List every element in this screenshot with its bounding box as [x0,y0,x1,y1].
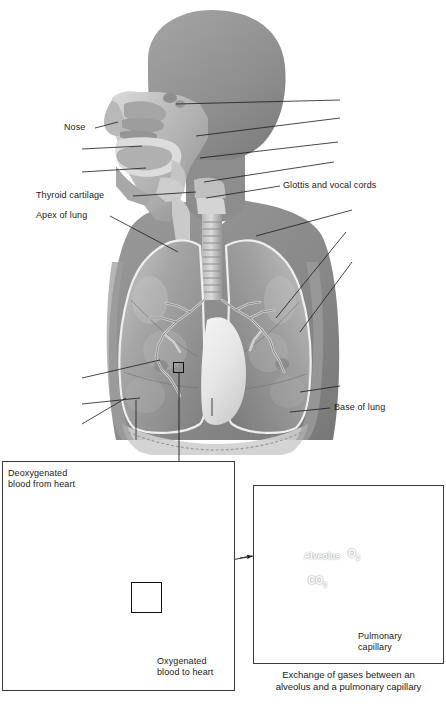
torso-group [104,10,339,461]
label-glottis-and-vocal-cords: Glottis and vocal cords [283,180,376,191]
respiratory-system-figure: Nose Thyroid cartilage Apex of lung Glot… [0,0,446,714]
label-pulmonary-capillary: Pulmonary capillary [358,631,402,653]
carbon-dioxide-symbol: CO [308,575,323,586]
label-oxygenated-blood-to-heart: Oxygenated blood to heart [157,656,213,678]
oxygen-symbol: O [348,548,356,559]
alveolus-capillary-panel [253,485,444,664]
label-thyroid-cartilage: Thyroid cartilage [36,190,104,201]
label-nose: Nose [64,122,85,133]
label-apex-of-lung: Apex of lung [36,210,87,221]
label-deoxygenated-blood-from-heart: Deoxygenated blood from heart [8,468,75,490]
right-panel-caption: Exchange of gases between an alveolus an… [253,669,444,693]
lung-callout-square [173,362,184,373]
label-alveolus: Alveolus [304,551,340,562]
carbon-dioxide-subscript: 2 [323,581,327,588]
alveolar-sac-callout-square [131,582,162,613]
label-carbon-dioxide: CO2 [308,575,327,590]
oxygen-subscript: 2 [356,554,360,561]
label-oxygen: O2 [348,548,360,563]
label-base-of-lung: Base of lung [334,402,385,413]
